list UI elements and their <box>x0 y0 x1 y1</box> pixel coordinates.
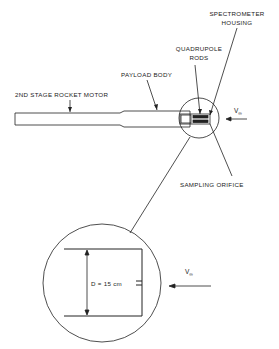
leader-arrow-quad <box>198 109 202 114</box>
diameter-label: D = 15 cm <box>91 280 122 287</box>
dim-arrow-top <box>85 250 89 255</box>
leader-spectrometer <box>210 28 237 115</box>
velocity-label-bottom: V∞ <box>185 268 193 277</box>
label-rods: RODS <box>189 54 208 61</box>
rocket-motor-shape <box>15 111 190 127</box>
arrow-head-top <box>226 117 231 121</box>
quadrupole-rods-shape <box>193 116 208 123</box>
dim-arrow-bottom <box>85 310 89 315</box>
label-payload-body: PAYLOAD BODY <box>121 71 172 78</box>
housing-inner <box>181 115 191 123</box>
label-rocket-motor: 2ND STAGE ROCKET MOTOR <box>15 91 108 98</box>
label-quadrupole: QUADRUPOLE <box>176 45 222 52</box>
label-housing: HOUSING <box>222 19 253 26</box>
label-sampling-orifice: SAMPLING ORIFICE <box>180 181 244 188</box>
velocity-label-top: V∞ <box>234 107 242 116</box>
leader-quadrupole <box>195 65 200 114</box>
leader-arrow-motor <box>68 107 72 112</box>
leader-sampling-orifice <box>210 124 232 176</box>
leader-arrow-payload <box>154 104 158 110</box>
label-spectrometer: SPECTROMETER <box>209 10 264 17</box>
rocket-sampling-diagram: SPECTROMETER HOUSING QUADRUPOLE RODS PAY… <box>0 0 279 349</box>
arrow-head-bottom <box>169 284 175 288</box>
